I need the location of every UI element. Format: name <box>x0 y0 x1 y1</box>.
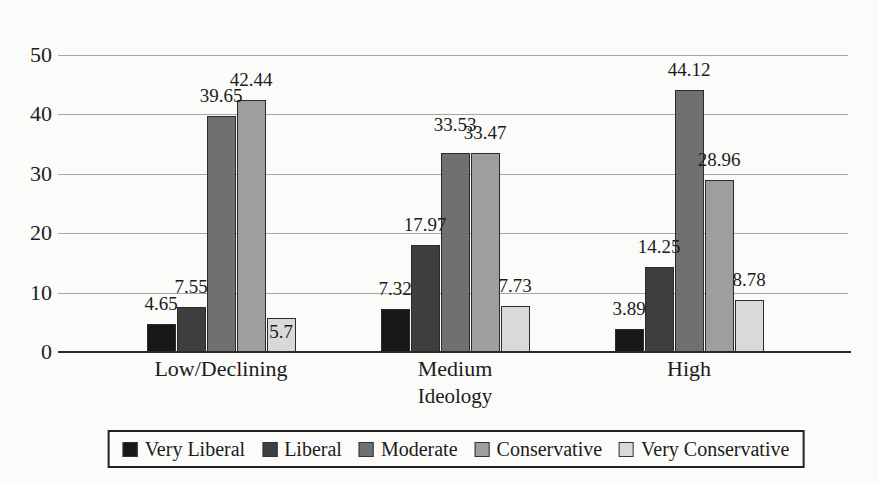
legend-swatch-very-liberal <box>123 442 138 457</box>
bar-very-conservative-medium <box>501 306 530 352</box>
legend-label-very-conservative: Very Conservative <box>641 437 789 461</box>
legend-label-very-liberal: Very Liberal <box>145 437 246 461</box>
legend-label-conservative: Conservative <box>497 437 603 461</box>
bar-very-liberal-low-declining <box>147 324 176 352</box>
legend-swatch-conservative <box>475 442 490 457</box>
y-tick-label-40: 40 <box>2 103 52 125</box>
y-tick-label-30: 30 <box>2 163 52 185</box>
bar-very-conservative-high <box>735 300 764 352</box>
bar-very-liberal-medium <box>381 309 410 352</box>
value-label-very-conservative-medium: 7.73 <box>470 276 560 296</box>
bar-conservative-high <box>705 180 734 352</box>
y-tick-label-20: 20 <box>2 222 52 244</box>
value-label-liberal-high: 14.25 <box>614 237 704 257</box>
value-label-liberal-medium: 17.97 <box>380 215 470 235</box>
value-label-very-conservative-low-declining: 5.7 <box>236 322 326 342</box>
legend-swatch-moderate <box>359 442 374 457</box>
value-label-conservative-low-declining: 42.44 <box>206 70 296 90</box>
y-tick-label-0: 0 <box>2 341 52 363</box>
gridline-50 <box>58 55 848 56</box>
scanned-bar-chart-figure: 01020304050Low/DecliningMediumHigh4.657.… <box>0 0 878 483</box>
bar-moderate-low-declining <box>207 116 236 352</box>
bar-moderate-medium <box>441 153 470 352</box>
x-axis-title: Ideology <box>345 384 565 408</box>
legend-label-liberal: Liberal <box>284 437 342 461</box>
legend-label-moderate: Moderate <box>381 437 458 461</box>
legend-item-very-conservative: Very Conservative <box>619 437 789 461</box>
bar-conservative-low-declining <box>237 100 266 352</box>
value-label-very-conservative-high: 8.78 <box>704 270 794 290</box>
bar-moderate-high <box>675 90 704 352</box>
y-tick-label-50: 50 <box>2 44 52 66</box>
legend-item-liberal: Liberal <box>262 437 342 461</box>
x-category-label-high: High <box>579 357 799 381</box>
x-axis-line <box>58 351 851 353</box>
value-label-conservative-high: 28.96 <box>674 150 764 170</box>
bar-very-liberal-high <box>615 329 644 352</box>
bar-conservative-medium <box>471 153 500 352</box>
y-tick-label-10: 10 <box>2 282 52 304</box>
value-label-very-liberal-medium: 7.32 <box>350 279 440 299</box>
legend: Very LiberalLiberalModerateConservativeV… <box>108 430 805 468</box>
value-label-very-liberal-low-declining: 4.65 <box>116 294 206 314</box>
legend-item-conservative: Conservative <box>475 437 603 461</box>
x-category-label-low-declining: Low/Declining <box>111 357 331 381</box>
legend-swatch-liberal <box>262 442 277 457</box>
value-label-liberal-low-declining: 7.55 <box>146 277 236 297</box>
x-category-label-medium: Medium <box>345 357 565 381</box>
legend-item-very-liberal: Very Liberal <box>123 437 246 461</box>
value-label-very-liberal-high: 3.89 <box>584 299 674 319</box>
legend-swatch-very-conservative <box>619 442 634 457</box>
legend-item-moderate: Moderate <box>359 437 458 461</box>
value-label-moderate-high: 44.12 <box>644 60 734 80</box>
value-label-conservative-medium: 33.47 <box>440 123 530 143</box>
